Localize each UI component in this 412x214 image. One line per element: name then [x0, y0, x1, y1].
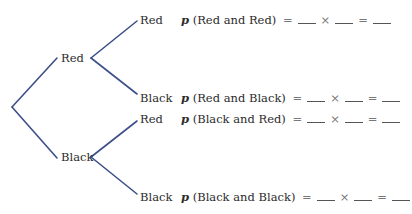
equals-sign: =	[283, 13, 293, 27]
equation-black-black: p (Black and Black) =×=	[181, 190, 412, 204]
prob-symbol: p	[181, 91, 189, 105]
blank-result[interactable]	[382, 92, 400, 102]
equals-sign: =	[293, 91, 303, 105]
equals-sign-2: =	[368, 91, 378, 105]
prob-symbol: p	[181, 112, 189, 126]
blank-result[interactable]	[382, 113, 400, 123]
node-red-black: Black	[140, 91, 172, 105]
branch-red-black	[91, 58, 137, 94]
prob-symbol: p	[181, 13, 189, 27]
branch-red-red	[91, 21, 137, 58]
blank-result[interactable]	[373, 14, 391, 24]
blank-1[interactable]	[307, 92, 325, 102]
event-label: (Red and Black)	[193, 91, 286, 105]
blank-2[interactable]	[335, 14, 353, 24]
equals-sign-2: =	[368, 112, 378, 126]
times-sign: ×	[321, 13, 331, 27]
equation-red-black: p (Red and Black) =×=	[181, 91, 402, 105]
prob-symbol: p	[181, 190, 189, 204]
blank-2[interactable]	[354, 191, 372, 201]
blank-2[interactable]	[345, 113, 363, 123]
blank-2[interactable]	[345, 92, 363, 102]
blank-1[interactable]	[317, 191, 335, 201]
equals-sign: =	[293, 112, 303, 126]
times-sign: ×	[330, 91, 340, 105]
event-label: (Red and Red)	[193, 13, 277, 27]
branch-root-black	[12, 107, 57, 158]
node-red-red: Red	[140, 13, 163, 27]
event-label: (Black and Black)	[193, 190, 296, 204]
branch-black-black	[91, 157, 137, 194]
equation-black-red: p (Black and Red) =×=	[181, 112, 402, 126]
node-black-black: Black	[140, 190, 172, 204]
equals-sign-2: =	[377, 190, 387, 204]
event-label: (Black and Red)	[193, 112, 286, 126]
node-first-red: Red	[61, 51, 84, 65]
node-first-black: Black	[61, 150, 93, 164]
equation-red-red: p (Red and Red) =×=	[181, 13, 393, 27]
node-black-red: Red	[140, 112, 163, 126]
blank-1[interactable]	[298, 14, 316, 24]
equals-sign-2: =	[358, 13, 368, 27]
branch-root-red	[12, 58, 57, 107]
times-sign: ×	[330, 112, 340, 126]
equals-sign: =	[302, 190, 312, 204]
times-sign: ×	[340, 190, 350, 204]
blank-result[interactable]	[392, 191, 410, 201]
blank-1[interactable]	[307, 113, 325, 123]
branch-black-red	[91, 121, 137, 157]
